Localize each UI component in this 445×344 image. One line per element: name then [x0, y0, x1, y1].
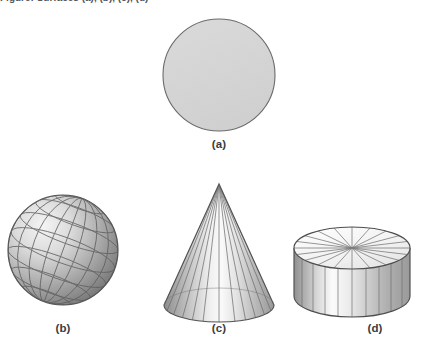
panel-label-a: (a)	[189, 138, 249, 150]
panel-label-d: (d)	[345, 322, 405, 334]
panel-label-b: (b)	[33, 322, 93, 334]
disk-outline	[163, 19, 275, 131]
shape-cylinder-d	[294, 227, 410, 322]
shape-disk-a	[163, 19, 275, 131]
shape-sphere-b	[0, 179, 134, 322]
figure-root: Figure: Surfaces (a), (b), (c), (d)	[0, 0, 445, 344]
panel-label-c: (c)	[189, 322, 249, 334]
shape-cone-c	[164, 184, 274, 322]
figure-canvas	[0, 0, 445, 344]
